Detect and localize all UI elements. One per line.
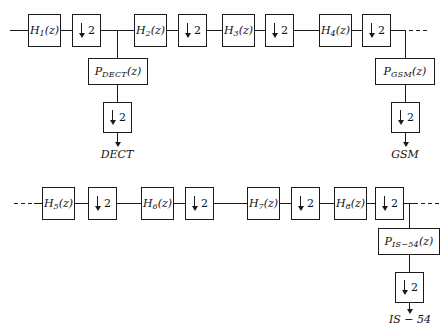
block-h7-label: H7(z): [249, 197, 278, 211]
decimator-row2-3-factor: 2: [307, 198, 314, 209]
down-arrow-icon: [368, 23, 375, 38]
block-h8-label: H8(z): [336, 197, 365, 211]
wire-h2-to-dec2: [167, 30, 178, 31]
arrowhead-dect-out: [115, 142, 121, 147]
block-h1: H1(z): [28, 14, 61, 47]
block-p-is54: PIS−54(z): [378, 228, 440, 255]
ellipsis-row2-start: [14, 200, 32, 206]
block-h1-label: H1(z): [30, 24, 59, 38]
decimator-row1-2: 2: [178, 14, 207, 47]
decimator-row2-4: 2: [375, 187, 404, 220]
output-label-dect: DECT: [87, 148, 147, 161]
decimator-row1-3: 2: [265, 14, 294, 47]
block-h6-label: H6(z): [143, 197, 172, 211]
ellipsis-row1-end: [409, 27, 427, 33]
decimator-row1-4: 2: [362, 14, 391, 47]
down-arrow-icon: [401, 280, 408, 295]
decimator-gsm: 2: [391, 102, 420, 133]
decimator-row2-1: 2: [88, 187, 117, 220]
decimator-row2-1-factor: 2: [104, 198, 111, 209]
arrowhead-gsm-out: [403, 142, 409, 147]
filter-bank-diagram: H1(z) 2 H2(z) 2 H3(z) 2 H4(z) 2 P: [0, 0, 447, 327]
wire-h6-to-dec2-row2: [174, 203, 185, 204]
block-h7: H7(z): [247, 187, 280, 220]
wire-dec3-to-h4: [294, 30, 319, 31]
down-arrow-icon: [297, 196, 304, 211]
block-p-is54-label: PIS−54(z): [385, 235, 434, 249]
block-h2: H2(z): [134, 14, 167, 47]
wire-h4-to-dec4: [352, 30, 362, 31]
wire-dec2-to-h7-row2: [214, 203, 247, 204]
down-arrow-icon: [191, 196, 198, 211]
wire-h7-to-dec3-row2: [280, 203, 291, 204]
block-p-dect: PDECT(z): [88, 58, 148, 85]
down-arrow-icon: [381, 196, 388, 211]
block-h2-label: H2(z): [136, 24, 165, 38]
wire-tap-gsm: [405, 30, 406, 58]
down-arrow-icon: [109, 110, 116, 125]
wire-dec3-to-h8-row2: [320, 203, 334, 204]
wire-h3-to-dec3: [255, 30, 265, 31]
down-arrow-icon: [397, 110, 404, 125]
output-label-gsm: GSM: [375, 148, 435, 161]
decimator-is54-factor: 2: [411, 282, 418, 293]
output-label-is54: IS − 54: [379, 313, 441, 326]
ellipsis-row2-end: [421, 200, 439, 206]
wire-dec4-tap: [391, 30, 406, 31]
decimator-row1-4-factor: 2: [378, 25, 385, 36]
wire-h8-to-dec4-row2: [367, 203, 375, 204]
wire-h5-to-dec1: [75, 203, 88, 204]
wire-input-row1: [10, 30, 28, 31]
wire-pdect-to-dec: [117, 85, 118, 102]
wire-pgsm-to-dec: [405, 85, 406, 102]
decimator-row2-4-factor: 2: [391, 198, 398, 209]
wire-tap-is54: [409, 203, 410, 228]
decimator-is54: 2: [395, 272, 424, 303]
wire-input-row2: [34, 203, 42, 204]
block-h8: H8(z): [334, 187, 367, 220]
block-h3-label: H3(z): [224, 24, 253, 38]
decimator-row1-2-factor: 2: [194, 25, 201, 36]
wire-h1-to-dec1: [61, 30, 72, 31]
decimator-row1-1-factor: 2: [88, 25, 95, 36]
down-arrow-icon: [184, 23, 191, 38]
block-p-gsm-label: PGSM(z): [384, 65, 427, 79]
wire-dec2-to-h3: [207, 30, 222, 31]
decimator-dect: 2: [103, 102, 132, 133]
wire-tap-dect: [117, 30, 118, 58]
decimator-row2-2: 2: [185, 187, 214, 220]
block-h6: H6(z): [141, 187, 174, 220]
wire-pis54-to-dec: [409, 255, 410, 272]
block-p-dect-label: PDECT(z): [95, 65, 142, 79]
decimator-row1-1: 2: [72, 14, 101, 47]
block-h5: H5(z): [42, 187, 75, 220]
wire-dec4-tap-row2: [404, 203, 418, 204]
block-h4-label: H4(z): [321, 24, 350, 38]
block-h3: H3(z): [222, 14, 255, 47]
block-h4: H4(z): [319, 14, 352, 47]
decimator-gsm-factor: 2: [407, 112, 414, 123]
down-arrow-icon: [271, 23, 278, 38]
block-h5-label: H5(z): [44, 197, 73, 211]
down-arrow-icon: [78, 23, 85, 38]
decimator-row2-3: 2: [291, 187, 320, 220]
down-arrow-icon: [94, 196, 101, 211]
decimator-row2-2-factor: 2: [201, 198, 208, 209]
wire-dec1-to-h6-row2: [117, 203, 141, 204]
decimator-row1-3-factor: 2: [281, 25, 288, 36]
decimator-dect-factor: 2: [119, 112, 126, 123]
block-p-gsm: PGSM(z): [375, 58, 435, 85]
